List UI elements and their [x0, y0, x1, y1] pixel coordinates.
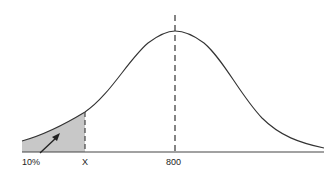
- distribution-plot: [0, 0, 336, 178]
- mean-marker-label: 800: [166, 157, 181, 167]
- normal-distribution-figure: 10% X 800: [0, 0, 336, 178]
- tail-percent-label: 10%: [22, 157, 40, 167]
- x-marker-label: X: [82, 157, 88, 167]
